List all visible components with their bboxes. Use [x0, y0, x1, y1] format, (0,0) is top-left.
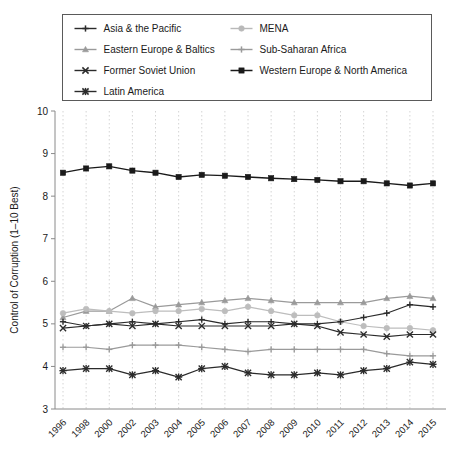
data-point-marker	[60, 170, 65, 175]
y-axis-title: Control of Corruption (1–10 Best)	[9, 186, 20, 333]
data-point-marker	[268, 346, 274, 352]
data-point-marker	[130, 310, 136, 316]
y-tick-label: 4	[42, 361, 48, 372]
gridlines	[63, 111, 433, 409]
data-point-marker	[107, 164, 112, 169]
data-point-marker	[338, 179, 343, 184]
data-point-marker	[199, 172, 204, 177]
data-point-marker	[106, 346, 112, 352]
data-point-marker	[176, 174, 181, 179]
legend-label: Former Soviet Union	[104, 65, 196, 76]
y-tick-label: 5	[42, 318, 48, 329]
series-mena	[60, 304, 436, 333]
data-point-marker	[384, 181, 389, 186]
data-point-marker	[239, 68, 244, 73]
data-point-marker	[384, 310, 390, 316]
data-point-marker	[84, 166, 89, 171]
x-tick-label: 2003	[138, 417, 161, 440]
data-point-marker	[429, 361, 436, 368]
legend-label: Eastern Europe & Baltics	[104, 44, 215, 55]
x-tick-label: 2002	[115, 417, 138, 440]
data-point-marker	[106, 365, 113, 372]
data-point-marker	[360, 367, 367, 374]
data-point-marker	[60, 310, 66, 316]
data-point-marker	[430, 181, 435, 186]
data-point-marker	[222, 308, 228, 314]
x-tick-label: 2015	[416, 417, 439, 440]
data-point-marker	[430, 353, 436, 359]
data-point-marker	[152, 342, 158, 348]
data-point-marker	[407, 353, 413, 359]
data-point-marker	[106, 308, 112, 314]
data-point-marker	[361, 323, 367, 329]
y-tick-label: 8	[42, 191, 48, 202]
data-point-marker	[407, 183, 412, 188]
data-point-marker	[199, 306, 205, 312]
data-point-marker	[244, 369, 251, 376]
data-point-marker	[129, 342, 135, 348]
data-point-marker	[153, 170, 158, 175]
data-point-marker	[269, 176, 274, 181]
x-tick-label: 2004	[161, 417, 184, 440]
data-point-marker	[199, 344, 205, 350]
data-point-marker	[129, 371, 136, 378]
data-point-marker	[199, 317, 205, 323]
data-point-marker	[407, 325, 413, 331]
data-point-marker	[130, 168, 135, 173]
legend-label: Latin America	[104, 86, 165, 97]
data-point-marker	[430, 304, 436, 310]
y-axis-ticks: 345678910	[37, 106, 55, 415]
data-point-marker	[83, 365, 90, 372]
data-point-marker	[83, 344, 89, 350]
data-point-marker	[82, 88, 89, 95]
x-tick-label: 2011	[324, 417, 346, 439]
data-point-marker	[315, 177, 320, 182]
y-tick-label: 7	[42, 233, 48, 244]
data-point-marker	[361, 314, 367, 320]
x-tick-label: 2013	[369, 417, 392, 440]
data-point-marker	[314, 369, 321, 376]
x-tick-label: 1998	[69, 417, 92, 440]
chart-legend: Asia & the PacificMENAEastern Europe & B…	[63, 15, 432, 101]
data-point-marker	[222, 346, 228, 352]
data-point-marker	[198, 365, 205, 372]
data-point-marker	[315, 313, 321, 319]
x-tick-label: 2006	[208, 417, 231, 440]
x-tick-label: 2012	[346, 417, 369, 440]
x-tick-label: 2010	[300, 417, 323, 440]
x-tick-label: 1996	[46, 417, 69, 440]
data-point-marker	[176, 308, 182, 314]
legend-label: MENA	[260, 23, 289, 34]
data-point-marker	[384, 351, 390, 357]
data-point-marker	[60, 344, 66, 350]
data-point-marker	[384, 325, 390, 331]
data-point-marker	[291, 371, 298, 378]
data-point-marker	[383, 365, 390, 372]
y-tick-label: 9	[42, 148, 48, 159]
data-point-marker	[361, 179, 366, 184]
legend-label: Sub-Saharan Africa	[260, 44, 347, 55]
data-point-marker	[337, 346, 343, 352]
x-axis-ticks: 1996199820002002200320042005200620072008…	[46, 417, 439, 440]
data-point-marker	[176, 342, 182, 348]
data-point-marker	[406, 359, 413, 366]
data-point-marker	[129, 295, 135, 300]
legend-label: Western Europe & North America	[260, 65, 408, 76]
data-point-marker	[152, 367, 159, 374]
data-point-marker	[314, 346, 320, 352]
y-tick-label: 6	[42, 276, 48, 287]
data-point-marker	[175, 373, 182, 380]
data-point-marker	[239, 26, 245, 32]
x-tick-label: 2000	[92, 417, 115, 440]
data-point-marker	[245, 348, 251, 354]
chart-canvas: 345678910Control of Corruption (1–10 Bes…	[0, 0, 453, 474]
x-tick-label: 2005	[184, 417, 207, 440]
data-point-marker	[59, 367, 66, 374]
data-point-marker	[153, 308, 159, 314]
data-point-marker	[222, 173, 227, 178]
data-point-marker	[221, 363, 228, 370]
corruption-line-chart: 345678910Control of Corruption (1–10 Bes…	[0, 0, 453, 474]
x-tick-label: 2007	[231, 417, 254, 440]
x-tick-label: 2014	[393, 417, 416, 440]
series-latin-america	[59, 359, 436, 381]
